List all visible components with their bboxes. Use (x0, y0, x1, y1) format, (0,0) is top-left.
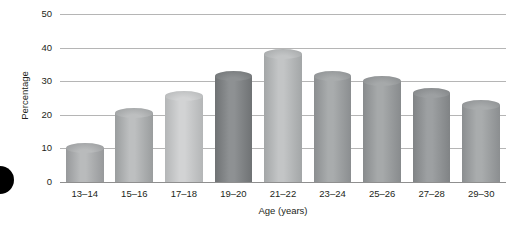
bar (314, 71, 352, 182)
gridline: 0 (60, 182, 506, 183)
bar-group: 19–20 (209, 14, 259, 182)
bar (363, 76, 401, 182)
bar-group: 21–22 (258, 14, 308, 182)
x-axis-tick-label: 23–24 (319, 189, 345, 199)
y-axis-tick-label: 50 (41, 9, 52, 19)
y-axis-tick-label: 40 (41, 43, 52, 53)
bar-group: 25–26 (357, 14, 407, 182)
bar (413, 88, 451, 182)
x-axis-tick-label: 25–26 (369, 189, 395, 199)
page-bullet-marker (0, 166, 14, 194)
bar (215, 71, 253, 182)
y-axis-title-label: Percentage (19, 71, 30, 120)
bar (115, 108, 153, 182)
bar (66, 143, 104, 182)
bar-group: 23–24 (308, 14, 358, 182)
bar-group: 13–14 (60, 14, 110, 182)
y-axis-title: Percentage (17, 50, 31, 140)
bar-body (264, 54, 302, 182)
bar-body (115, 113, 153, 182)
x-axis-tick-label: 21–22 (270, 189, 296, 199)
bar-body (363, 81, 401, 182)
bar-body (413, 93, 451, 182)
x-axis-tick-label: 15–16 (121, 189, 147, 199)
x-axis-tick-label: 13–14 (72, 189, 98, 199)
bars-layer: 13–1415–1617–1819–2021–2223–2425–2627–28… (60, 14, 506, 182)
x-axis-tick-label: 17–18 (171, 189, 197, 199)
bar-group: 17–18 (159, 14, 209, 182)
y-axis-tick-label: 10 (41, 144, 52, 154)
bar-cap (462, 100, 500, 110)
bar-body (215, 76, 253, 182)
bar-body (66, 148, 104, 182)
bar-cap (413, 88, 451, 98)
x-axis-tick-label: 29–30 (468, 189, 494, 199)
bar-body (462, 105, 500, 182)
bar-body (314, 76, 352, 182)
y-axis-tick-label: 30 (41, 76, 52, 86)
bar (165, 91, 203, 182)
y-axis-tick-label: 20 (41, 110, 52, 120)
plot-area: 01020304050 13–1415–1617–1819–2021–2223–… (60, 14, 506, 182)
bar (462, 100, 500, 182)
bar-group: 15–16 (110, 14, 160, 182)
x-axis-tick-label: 27–28 (418, 189, 444, 199)
bar-chart: Percentage 01020304050 13–1415–1617–1819… (0, 0, 521, 235)
x-axis-tick-label: 19–20 (220, 189, 246, 199)
bar-body (165, 96, 203, 182)
y-axis-tick-label: 0 (47, 177, 52, 187)
bar-group: 29–30 (456, 14, 506, 182)
bar-group: 27–28 (407, 14, 457, 182)
bar (264, 49, 302, 182)
x-axis-title: Age (years) (60, 205, 506, 216)
